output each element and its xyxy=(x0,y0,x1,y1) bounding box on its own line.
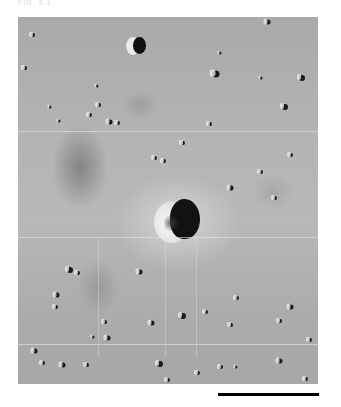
framelet-seam xyxy=(18,131,318,132)
framelet-seam xyxy=(18,237,318,238)
small-crater xyxy=(289,305,294,310)
small-crater xyxy=(208,122,212,126)
small-crater xyxy=(180,313,186,319)
framelet-seam xyxy=(18,344,318,345)
figure-label: FIG. 3-1 xyxy=(18,0,78,6)
small-crater xyxy=(260,77,263,80)
small-crater xyxy=(278,359,283,364)
small-crater xyxy=(92,336,95,339)
vertical-streak xyxy=(196,237,197,357)
small-crater xyxy=(153,156,157,160)
small-crater xyxy=(31,33,35,37)
top-crater-shadow xyxy=(133,37,146,54)
small-crater xyxy=(219,365,223,369)
small-crater xyxy=(166,378,170,382)
small-crater xyxy=(33,349,38,354)
small-crater xyxy=(96,85,99,88)
small-crater xyxy=(116,121,120,125)
small-crater xyxy=(308,338,312,342)
small-crater xyxy=(299,75,305,81)
top-crater xyxy=(126,35,148,57)
small-crater xyxy=(138,270,143,275)
small-crater xyxy=(229,323,233,327)
small-crater xyxy=(235,296,239,300)
small-crater xyxy=(289,153,293,157)
small-crater xyxy=(150,321,155,326)
small-crater xyxy=(106,336,111,341)
small-crater xyxy=(278,319,282,323)
small-crater xyxy=(108,120,113,125)
small-crater xyxy=(157,361,163,367)
scale-bar xyxy=(218,393,319,396)
small-crater xyxy=(55,293,60,298)
small-crater xyxy=(49,106,52,109)
small-crater xyxy=(229,186,234,191)
small-crater xyxy=(219,52,222,55)
small-crater xyxy=(266,20,271,25)
small-crater xyxy=(273,196,277,200)
small-crater xyxy=(58,120,61,123)
small-crater xyxy=(304,377,308,381)
lunar-surface-photo xyxy=(18,17,318,384)
small-crater xyxy=(76,271,80,275)
small-crater xyxy=(213,71,220,78)
small-crater xyxy=(67,267,73,273)
small-crater xyxy=(181,141,185,145)
small-crater xyxy=(61,363,66,368)
vertical-streak xyxy=(98,237,99,357)
small-crater xyxy=(88,113,92,117)
small-crater xyxy=(204,310,208,314)
small-crater xyxy=(259,170,263,174)
small-crater xyxy=(196,371,200,375)
small-crater xyxy=(41,361,45,365)
main-crater-floor xyxy=(164,213,178,233)
small-crater xyxy=(235,366,238,369)
vertical-streak xyxy=(165,237,166,357)
small-crater xyxy=(103,320,107,324)
small-crater xyxy=(54,305,58,309)
small-crater xyxy=(282,104,288,110)
small-crater xyxy=(23,66,27,70)
small-crater xyxy=(162,159,166,163)
small-crater xyxy=(85,363,89,367)
small-crater xyxy=(97,103,101,107)
